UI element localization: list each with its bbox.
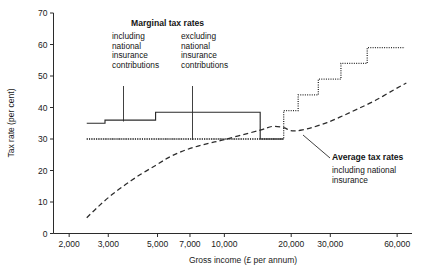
x-tick-label-2,000: 2,000 xyxy=(59,239,81,249)
x-tick-label-5,000: 5,000 xyxy=(147,239,169,249)
y-tick-label-0: 0 xyxy=(43,229,48,239)
marginal-including-ni-step xyxy=(87,112,284,139)
y-tick-label-30: 30 xyxy=(38,134,48,144)
excluding-ni-annotation: excluding national insurance contributio… xyxy=(181,32,228,71)
y-axis-title: Tax rate (per cent) xyxy=(6,88,16,157)
y-tick-label-40: 40 xyxy=(38,103,48,113)
average-tax-rates-title: Average tax rates xyxy=(332,152,403,162)
y-tick-label-50: 50 xyxy=(38,71,48,81)
leader-lines xyxy=(124,86,331,158)
tax-rates-chart: 010203040506070 2,0003,0005,0007,00010,0… xyxy=(0,0,424,277)
x-axis-ticks: 2,0003,0005,0007,00010,00020,00030,00060… xyxy=(59,234,411,249)
leader-average-tax xyxy=(303,135,330,158)
including-ni-annotation: including national insurance contributio… xyxy=(112,32,159,71)
y-axis-ticks: 010203040506070 xyxy=(38,8,53,239)
average-tax-rates-subtitle: including national insurance xyxy=(332,166,396,185)
x-tick-label-60,000: 60,000 xyxy=(384,239,410,249)
x-axis-title: Gross income (£ per annum) xyxy=(189,255,297,265)
series-group xyxy=(87,48,407,218)
x-tick-label-7,000: 7,000 xyxy=(179,239,201,249)
x-tick-label-3,000: 3,000 xyxy=(98,239,120,249)
x-tick-label-20,000: 20,000 xyxy=(278,239,304,249)
y-tick-label-20: 20 xyxy=(38,166,48,176)
x-tick-label-10,000: 10,000 xyxy=(211,239,237,249)
axes-group xyxy=(54,13,413,234)
marginal-tax-rates-title: Marginal tax rates xyxy=(131,18,204,28)
x-tick-label-30,000: 30,000 xyxy=(317,239,343,249)
y-tick-label-70: 70 xyxy=(38,8,48,18)
y-tick-label-60: 60 xyxy=(38,40,48,50)
average-tax-rate-curve xyxy=(87,83,407,218)
y-tick-label-10: 10 xyxy=(38,197,48,207)
